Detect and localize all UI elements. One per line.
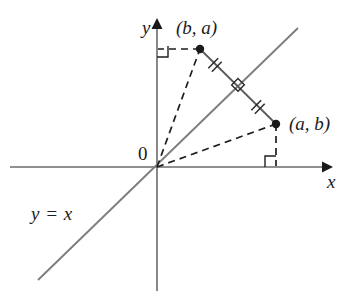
axes-group bbox=[10, 18, 333, 291]
right-angle-at-x-axis-icon bbox=[265, 156, 276, 167]
point-label-ba: (b, a) bbox=[176, 18, 217, 37]
y-axis-label: y bbox=[142, 18, 150, 37]
line-equation-label: y = x bbox=[31, 204, 73, 223]
point-dot-ba bbox=[196, 45, 204, 53]
geometry-figure: y x 0 (b, a) (a, b) y = x bbox=[0, 0, 351, 296]
line-y-equals-x bbox=[38, 28, 298, 280]
x-axis-label: x bbox=[327, 172, 335, 191]
point-dot-ab bbox=[272, 120, 280, 128]
diagram-canvas bbox=[0, 0, 351, 296]
dashed-origin-to-point-ba bbox=[157, 49, 200, 167]
y-axis-arrowhead bbox=[152, 18, 163, 29]
dashed-origin-to-point-ab bbox=[157, 124, 276, 167]
origin-label: 0 bbox=[138, 144, 148, 163]
point-label-ab: (a, b) bbox=[289, 114, 330, 133]
right-angle-at-y-axis-icon bbox=[157, 46, 168, 57]
